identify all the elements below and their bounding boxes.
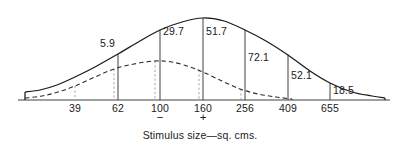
x-tick-label-655: 655	[321, 102, 339, 114]
x-tick-label-62: 62	[112, 102, 124, 114]
value-label-29-7: 29.7	[163, 25, 184, 37]
curve-end-caps	[25, 92, 385, 100]
value-labels: 5.929.751.772.152.118.5	[100, 25, 354, 96]
x-axis-caption: Stimulus size—sq. cms.	[143, 129, 258, 141]
value-label-72-1: 72.1	[248, 51, 269, 63]
reference-lines	[75, 18, 330, 100]
value-label-52-1: 52.1	[291, 69, 312, 81]
value-label-5-9: 5.9	[100, 37, 115, 49]
x-tick-label-256: 256	[236, 102, 254, 114]
stimulus-size-distribution-chart: 5.929.751.772.152.118.5 3962100160256409…	[0, 0, 400, 147]
x-tick-label-39: 39	[69, 102, 81, 114]
x-tick-label-409: 409	[279, 102, 297, 114]
solid-distribution-curve	[25, 18, 385, 98]
value-label-51-7: 51.7	[206, 25, 227, 37]
dashed-distribution-curve	[25, 61, 292, 99]
minus-sign-annotation: −	[157, 111, 164, 123]
value-label-18-5: 18.5	[333, 84, 354, 96]
plus-sign-annotation: +	[200, 111, 207, 123]
chart-canvas: 5.929.751.772.152.118.5 3962100160256409…	[0, 0, 400, 147]
